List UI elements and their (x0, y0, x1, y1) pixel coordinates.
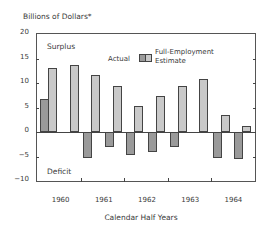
year-label: 1962 (132, 196, 162, 204)
x-axis-title: Calendar Half Years (0, 213, 268, 222)
y-tick-label: −10 (7, 175, 29, 183)
y-tick-mark (36, 157, 39, 158)
full-employment-bar (178, 86, 187, 132)
actual-bar (148, 132, 157, 152)
full-employment-bar (91, 75, 100, 132)
y-tick-mark (36, 132, 39, 133)
full-employment-bar (156, 96, 165, 132)
y-tick-label: 5 (7, 102, 29, 110)
actual-bar (170, 132, 179, 147)
full-employment-bar (242, 126, 251, 132)
y-tick-mark (36, 83, 39, 84)
deficit-label: Deficit (47, 167, 71, 176)
full-employment-bar (48, 68, 57, 132)
x-tick-mark (124, 178, 125, 182)
y-tick-label: −5 (7, 151, 29, 159)
actual-bar (234, 132, 243, 159)
y-tick-label: 20 (7, 28, 29, 36)
y-tick-mark (253, 83, 256, 84)
y-tick-mark (253, 132, 256, 133)
x-tick-mark (81, 178, 82, 182)
x-tick-mark (211, 178, 212, 182)
y-tick-label: 15 (7, 53, 29, 61)
y-tick-label: 0 (7, 126, 29, 134)
legend-actual-label: Actual (108, 55, 130, 63)
year-label: 1963 (175, 196, 205, 204)
y-tick-mark (36, 108, 39, 109)
y-tick-mark (253, 157, 256, 158)
actual-bar (213, 132, 222, 158)
zero-line (37, 132, 255, 133)
y-axis-title: Billions of Dollars* (23, 12, 92, 21)
surplus-label: Surplus (47, 42, 75, 51)
legend-fe-label-2: Estimate (155, 57, 186, 65)
y-tick-mark (36, 59, 39, 60)
full-employment-bar (199, 79, 208, 132)
actual-bar (126, 132, 135, 155)
full-employment-bar (70, 65, 79, 132)
y-tick-mark (253, 59, 256, 60)
full-employment-bar (113, 86, 122, 132)
full-employment-bar (134, 106, 143, 132)
legend-fe-swatch (145, 54, 152, 62)
y-tick-mark (253, 108, 256, 109)
year-label: 1960 (46, 196, 76, 204)
actual-bar (83, 132, 92, 158)
y-tick-label: 10 (7, 77, 29, 85)
legend-fe-label-1: Full-Employment (155, 48, 214, 56)
full-employment-bar (221, 115, 230, 132)
actual-bar (105, 132, 114, 147)
x-tick-mark (168, 178, 169, 182)
year-label: 1961 (89, 196, 119, 204)
plot-area: Surplus Deficit Actual Full-Employment E… (36, 33, 256, 182)
year-label: 1964 (218, 196, 248, 204)
